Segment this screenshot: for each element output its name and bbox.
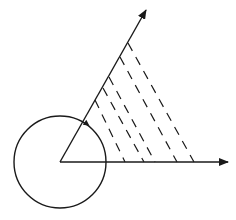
hatch-line	[128, 43, 194, 162]
oblique-ray-arrow	[60, 10, 146, 162]
hatch-line	[109, 77, 155, 162]
hatched-region	[95, 43, 194, 162]
hatch-line	[103, 88, 144, 162]
angle-diagram	[0, 0, 236, 220]
hatch-line	[95, 100, 125, 162]
hatch-line	[120, 57, 177, 162]
